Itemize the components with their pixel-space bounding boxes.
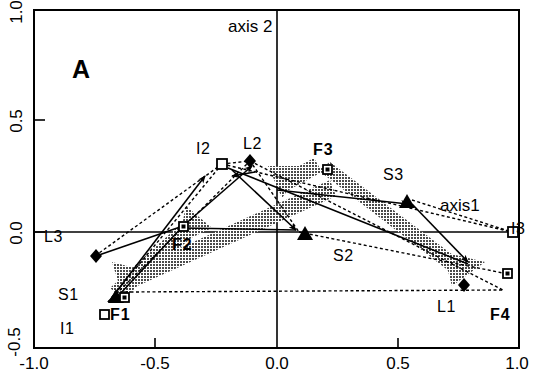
point-label-S3: S3 <box>383 166 404 184</box>
point-label-F4: F4 <box>490 306 511 324</box>
point-label-L1: L1 <box>437 298 456 316</box>
point-label-F2: F2 <box>172 236 193 254</box>
axis1-title: axis1 <box>440 196 480 216</box>
xtick-label-4: 1.0 <box>505 354 529 374</box>
point-label-L3: L3 <box>44 228 63 246</box>
ytick-label-2: 0.0 <box>7 208 27 258</box>
xtick-label-2: 0.0 <box>265 354 289 374</box>
panel-letter-A: A <box>72 55 90 84</box>
point-label-I3: I3 <box>511 220 525 238</box>
axis2-title: axis 2 <box>228 17 272 37</box>
marker-I1 <box>100 310 109 319</box>
point-label-F3: F3 <box>313 141 334 159</box>
ytick-label-1: 0.5 <box>7 96 27 146</box>
xtick-label-3: 0.5 <box>386 354 410 374</box>
point-label-S1: S1 <box>58 286 79 304</box>
marker-S3 <box>399 194 415 208</box>
ytick-label-3: -0.5 <box>5 317 25 367</box>
scatter-plot-figure: A axis 2 axis1 -1.0 -0.5 0.0 0.5 1.0 1.0… <box>0 0 538 389</box>
point-label-F1: F1 <box>110 306 131 324</box>
point-label-I1: I1 <box>60 320 74 338</box>
point-label-S2: S2 <box>333 247 354 265</box>
marker-I2 <box>217 159 227 169</box>
marker-S2 <box>297 226 313 240</box>
ytick-label-0: 1.0 <box>7 0 27 37</box>
point-label-I2: I2 <box>196 140 210 158</box>
xtick-label-1: -0.5 <box>140 354 169 374</box>
marker-L3 <box>90 249 102 263</box>
point-label-L2: L2 <box>243 135 262 153</box>
